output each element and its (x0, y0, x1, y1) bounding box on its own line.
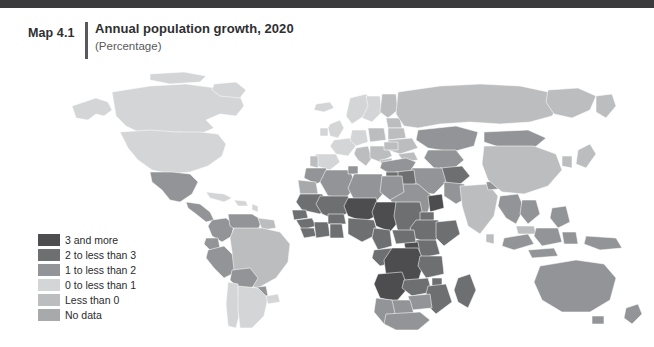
legend-label: Less than 0 (65, 294, 119, 306)
region-papua-new-guinea (584, 236, 622, 250)
legend-item: 3 and more (38, 232, 188, 247)
region-madagascar (454, 274, 476, 308)
region-sri-lanka (486, 234, 494, 244)
region-united-kingdom (328, 120, 344, 138)
region-mongolia (484, 130, 546, 148)
region-lesser-antilles (252, 204, 258, 212)
region-greenland (252, 66, 300, 106)
legend-label: 1 to less than 2 (65, 264, 136, 276)
region-belarus (388, 128, 406, 140)
legend-label: 0 to less than 1 (65, 279, 136, 291)
region-indonesia-sumatra (502, 234, 534, 250)
legend-item: 1 to less than 2 (38, 262, 188, 277)
region-vietnam (520, 200, 540, 224)
region-poland (368, 128, 386, 142)
title-divider-rule (85, 22, 88, 59)
legend-swatch-0-to-less-than-1 (38, 279, 60, 291)
map-number-label: Map 4.1 (28, 26, 75, 40)
region-sierra-liberia (300, 228, 316, 238)
region-ireland (320, 128, 328, 136)
page-title: Annual population growth, 2020 (95, 21, 294, 37)
region-tunisia (348, 166, 358, 174)
region-ghana (330, 224, 344, 238)
region-russian-federation (396, 84, 560, 128)
region-cameroon (372, 228, 392, 250)
region-uruguay (266, 294, 280, 304)
region-indonesia-java (528, 248, 558, 258)
legend-item: 0 to less than 1 (38, 277, 188, 292)
region-hispaniola (234, 200, 248, 206)
region-western-sahara (298, 180, 318, 194)
region-cote-divoire (314, 222, 330, 238)
region-philippines (550, 206, 570, 228)
region-central-america (186, 202, 214, 222)
region-romania (384, 142, 398, 150)
region-alaska (72, 98, 112, 120)
legend-swatch-2-to-less-than-3 (38, 249, 60, 261)
region-myanmar-thailand (498, 194, 524, 224)
region-mexico (150, 172, 198, 202)
legend-item: 2 to less than 3 (38, 247, 188, 262)
region-senegal (292, 210, 308, 220)
legend-label: 2 to less than 3 (65, 249, 136, 261)
region-finland (380, 94, 398, 118)
legend-label: 3 and more (65, 234, 118, 246)
page-subtitle: (Percentage) (95, 39, 294, 54)
region-portugal (310, 156, 318, 168)
region-malaysia (516, 226, 536, 234)
region-russia-east (546, 88, 596, 118)
map-legend: 3 and more 2 to less than 3 1 to less th… (38, 232, 188, 322)
region-iceland (314, 102, 334, 112)
title-block: Annual population growth, 2020 (Percenta… (95, 21, 294, 54)
legend-swatch-no-data (38, 309, 60, 321)
region-oman (428, 194, 444, 212)
region-india (460, 184, 498, 234)
legend-swatch-1-to-less-than-2 (38, 264, 60, 276)
region-tasmania (592, 316, 604, 324)
region-italy (354, 146, 372, 166)
region-south-africa (384, 312, 430, 330)
region-new-zealand (624, 304, 642, 324)
legend-swatch-less-than-0 (38, 294, 60, 306)
region-cuba (206, 192, 232, 202)
legend-item: Less than 0 (38, 292, 188, 307)
region-sulawesi (562, 232, 578, 244)
region-borneo (534, 228, 562, 246)
legend-swatch-3-and-more (38, 234, 60, 246)
region-burkina-faso (328, 214, 346, 224)
region-somalia (436, 220, 460, 246)
region-japan (576, 144, 596, 168)
region-korea (562, 156, 572, 168)
region-kamchatka (596, 94, 616, 118)
region-united-states (120, 130, 226, 174)
region-south-sudan (392, 230, 416, 244)
top-accent-bar (0, 0, 654, 8)
legend-label: No data (65, 309, 102, 321)
legend-item: No data (38, 307, 188, 322)
region-canada-arctic (150, 72, 206, 84)
region-australia (534, 260, 616, 312)
region-united-republic-of-tanzania (418, 256, 444, 278)
region-kazakhstan (416, 126, 478, 152)
